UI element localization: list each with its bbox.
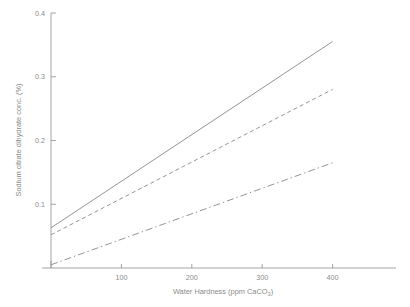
x-tick-marks <box>51 261 333 268</box>
x-tick-label: 100 <box>115 273 127 282</box>
x-tick-label: 300 <box>256 273 268 282</box>
y-tick-label: 0.2 <box>35 136 45 145</box>
x-tick-label: 200 <box>186 273 198 282</box>
x-axis-title: Water Hardness (ppm CaCO3) <box>173 287 273 297</box>
y-tick-label: 0.4 <box>35 9 45 18</box>
y-tick-label: 0.1 <box>35 200 45 209</box>
x-axis-title-suffix: ) <box>271 287 273 296</box>
y-axis-title: Sodium citrate dihydrate conc. (%) <box>14 84 23 197</box>
x-axis-title-main: Water Hardness (ppm CaCO <box>173 287 268 296</box>
series-line-middle <box>51 89 333 234</box>
chart-page: 0.4 0.3 0.2 0.1 100 200 300 400 Water Ha… <box>0 0 410 307</box>
y-tick-marks <box>51 13 56 204</box>
y-tick-label: 0.3 <box>35 72 45 81</box>
series-group <box>51 42 333 265</box>
series-line-upper <box>51 42 333 228</box>
series-line-lower <box>51 163 333 265</box>
line-chart: 0.4 0.3 0.2 0.1 100 200 300 400 Water Ha… <box>0 0 410 307</box>
x-tick-label: 400 <box>327 273 339 282</box>
